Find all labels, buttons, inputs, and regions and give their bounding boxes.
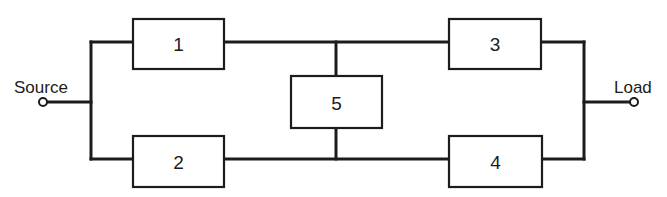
load-terminal-icon — [630, 98, 638, 106]
block-3-label: 3 — [490, 34, 501, 55]
bridge-diagram: 1 2 3 4 5 Source Load — [0, 0, 667, 197]
block-4-label: 4 — [490, 152, 501, 173]
block-2-label: 2 — [173, 152, 184, 173]
block-1-label: 1 — [173, 34, 184, 55]
load-label: Load — [614, 78, 652, 97]
block-5: 5 — [291, 76, 382, 128]
block-3: 3 — [449, 19, 541, 69]
source-label: Source — [14, 78, 68, 97]
block-5-label: 5 — [331, 93, 342, 114]
block-1: 1 — [133, 19, 224, 69]
source-terminal-icon — [39, 98, 47, 106]
block-4: 4 — [449, 136, 542, 187]
block-2: 2 — [133, 136, 224, 187]
